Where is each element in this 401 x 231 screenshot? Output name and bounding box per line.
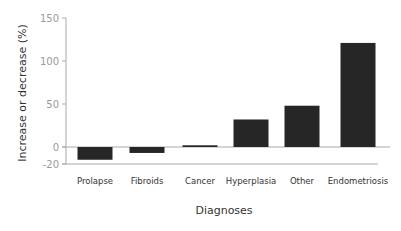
x-tick-label: Fibroids bbox=[131, 176, 164, 186]
y-tick-label: 0 bbox=[53, 142, 59, 153]
bars bbox=[78, 43, 376, 160]
y-tick-label: -20 bbox=[43, 159, 59, 170]
x-tick-label: Other bbox=[290, 176, 315, 186]
y-tick-label: 100 bbox=[40, 56, 59, 67]
x-tick-label: Hyperplasia bbox=[226, 176, 277, 186]
bar-endometriosis bbox=[341, 43, 376, 147]
bar-other bbox=[285, 106, 320, 147]
x-axis-label: Diagnoses bbox=[195, 204, 252, 217]
x-tick-label: Cancer bbox=[185, 176, 215, 186]
x-tick-label: Endometriosis bbox=[328, 176, 389, 186]
bar-chart: -20050100150 ProlapseFibroidsCancerHyper… bbox=[0, 0, 401, 231]
bar-fibroids bbox=[130, 147, 165, 153]
y-axis-label: Increase or decrease (%) bbox=[16, 24, 29, 161]
y-tick-label: 50 bbox=[46, 99, 59, 110]
bar-prolapse bbox=[78, 147, 113, 160]
x-tick-label: Prolapse bbox=[77, 176, 113, 186]
y-tick-label: 150 bbox=[40, 13, 59, 24]
x-tick-labels: ProlapseFibroidsCancerHyperplasiaOtherEn… bbox=[77, 176, 389, 186]
bar-hyperplasia bbox=[234, 119, 269, 147]
bar-cancer bbox=[183, 145, 218, 147]
